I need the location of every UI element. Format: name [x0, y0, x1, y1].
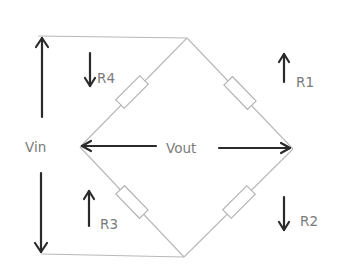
r4-down-arrow-icon — [85, 53, 95, 86]
r2-down-arrow-icon — [279, 197, 289, 230]
vin-up-arrow-icon — [36, 38, 48, 117]
resistor-r3 — [116, 186, 148, 219]
bottom-supply-wire — [41, 254, 184, 257]
r1-up-arrow-icon — [279, 54, 289, 82]
top-supply-wire — [38, 36, 187, 38]
vout-label: Vout — [166, 140, 196, 156]
vin-label: Vin — [25, 139, 46, 155]
resistor-r4 — [116, 76, 149, 109]
resistor-r1 — [224, 77, 256, 110]
vout-left-arrow-icon — [82, 141, 156, 151]
r2-label: R2 — [300, 213, 318, 229]
r4-label: R4 — [97, 70, 115, 86]
vin-down-arrow-icon — [35, 173, 47, 252]
wheatstone-bridge-diagram: Vin Vout R4 R1 R3 R2 — [0, 0, 338, 279]
r3-label: R3 — [100, 216, 118, 232]
r3-up-arrow-icon — [84, 191, 94, 226]
resistor-r2 — [223, 186, 256, 219]
vout-right-arrow-icon — [219, 143, 290, 153]
r1-label: R1 — [296, 74, 314, 90]
